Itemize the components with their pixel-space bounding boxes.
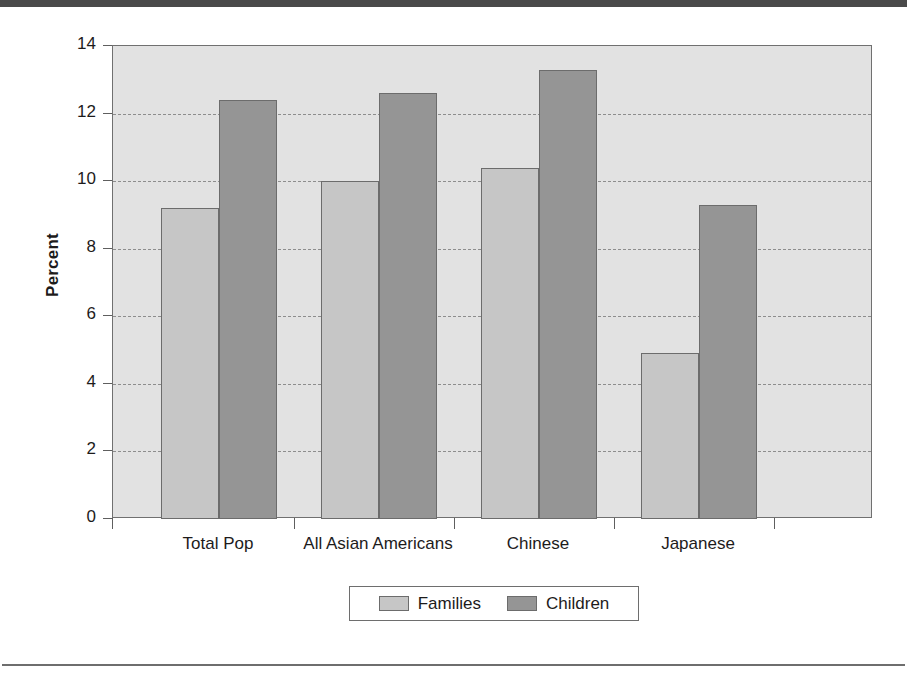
y-axis-tick (103, 518, 112, 519)
y-axis-tick-label: 0 (38, 507, 96, 527)
bar-children-japanese (699, 205, 757, 519)
x-axis-tick (454, 518, 455, 529)
x-axis-origin-tick (112, 518, 113, 529)
legend-label-families: Families (418, 594, 481, 614)
y-axis-tick (103, 45, 112, 46)
page-bottom-rule (2, 664, 905, 666)
legend-entry-children: Children (507, 594, 609, 614)
plot-area (112, 45, 872, 518)
bar-families-chinese (481, 168, 539, 519)
bar-families-total-pop (161, 208, 219, 519)
bar-children-all-asian-americans (379, 93, 437, 519)
y-axis-tick (103, 450, 112, 451)
chart-legend: FamiliesChildren (349, 586, 639, 621)
x-axis-tick (294, 518, 295, 529)
legend-swatch-families (379, 596, 409, 611)
bar-families-japanese (641, 353, 699, 519)
y-axis-tick (103, 315, 112, 316)
y-axis-tick (103, 248, 112, 249)
y-axis-tick-label: 12 (38, 102, 96, 122)
legend-entry-families: Families (379, 594, 481, 614)
y-axis-tick-label: 2 (38, 439, 96, 459)
legend-label-children: Children (546, 594, 609, 614)
y-axis-tick (103, 383, 112, 384)
legend-swatch-children (507, 596, 537, 611)
y-axis-tick-label: 4 (38, 372, 96, 392)
bar-children-chinese (539, 70, 597, 519)
y-axis-tick (103, 113, 112, 114)
y-axis-tick-label: 6 (38, 304, 96, 324)
bar-families-all-asian-americans (321, 181, 379, 519)
bar-chart-figure: Percent 02468101214 Total PopAll Asian A… (0, 0, 907, 678)
y-axis-tick-label: 10 (38, 169, 96, 189)
y-axis-tick (103, 180, 112, 181)
x-axis-tick (614, 518, 615, 529)
y-axis-tick-label: 14 (38, 34, 96, 54)
y-axis-tick-label: 8 (38, 237, 96, 257)
x-axis-label-japanese: Japanese (578, 534, 818, 554)
x-axis-tick (774, 518, 775, 529)
bar-children-total-pop (219, 100, 277, 519)
